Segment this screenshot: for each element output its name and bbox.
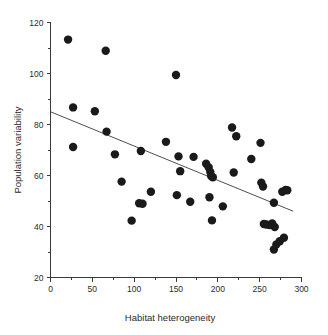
- x-tick-label: 50: [88, 284, 98, 294]
- data-point: [102, 47, 110, 55]
- x-axis-title: Habitat heterogeneity: [125, 312, 216, 323]
- data-point: [209, 173, 217, 181]
- data-point: [283, 186, 291, 194]
- data-point: [280, 234, 288, 242]
- data-point: [230, 168, 238, 176]
- data-point: [208, 216, 216, 224]
- y-tick-label: 60: [34, 171, 44, 181]
- data-point: [270, 199, 278, 207]
- data-point: [189, 153, 197, 161]
- data-point: [69, 103, 77, 111]
- data-point: [256, 139, 264, 147]
- y-tick-label: 40: [34, 222, 44, 232]
- data-point: [172, 71, 180, 79]
- data-point: [91, 107, 99, 115]
- y-tick-label: 100: [29, 69, 43, 79]
- data-point: [147, 188, 155, 196]
- y-tick-label: 80: [34, 120, 44, 130]
- data-point: [64, 35, 72, 43]
- x-tick-label: 100: [127, 284, 141, 294]
- data-point: [176, 167, 184, 175]
- x-tick-label: 150: [169, 284, 183, 294]
- data-point: [117, 177, 125, 185]
- data-point: [173, 191, 181, 199]
- x-axis-tick-labels: 050100150200250300: [48, 284, 309, 294]
- regression-line: [51, 112, 294, 211]
- data-point: [271, 223, 279, 231]
- data-point: [138, 200, 146, 208]
- plot-canvas: 20406080100120 050100150200250300 Habita…: [0, 0, 328, 335]
- x-tick-label: 200: [211, 284, 225, 294]
- data-point: [137, 147, 145, 155]
- data-point: [111, 150, 119, 158]
- data-point: [232, 132, 240, 140]
- x-tick-label: 250: [253, 284, 267, 294]
- data-point: [228, 123, 236, 131]
- data-point: [69, 143, 77, 151]
- scatter-plot-figure: 20406080100120 050100150200250300 Habita…: [0, 0, 328, 335]
- data-point: [259, 182, 267, 190]
- y-tick-label: 20: [34, 273, 44, 283]
- y-axis-title: Population variability: [12, 106, 23, 193]
- data-point: [174, 152, 182, 160]
- data-points-group: [64, 35, 292, 253]
- x-axis-major-ticks: [51, 278, 302, 282]
- data-point: [162, 138, 170, 146]
- data-point: [247, 155, 255, 163]
- y-axis-tick-labels: 20406080100120: [29, 18, 43, 283]
- data-point: [186, 198, 194, 206]
- data-point: [127, 216, 135, 224]
- data-point: [102, 127, 110, 135]
- y-tick-label: 120: [29, 18, 43, 28]
- x-tick-label: 300: [294, 284, 308, 294]
- x-tick-label: 0: [48, 284, 53, 294]
- data-point: [205, 193, 213, 201]
- data-point: [219, 202, 227, 210]
